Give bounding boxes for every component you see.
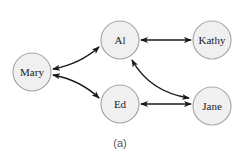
node-mary: Mary [13,53,51,91]
node-jane-label: Jane [202,100,222,112]
node-mary-label: Mary [20,66,44,78]
social-network-diagram: Mary Al Kathy Ed Jane (a) [0,0,244,159]
node-al: Al [101,21,139,59]
node-al-label: Al [115,34,126,46]
node-jane: Jane [193,87,231,125]
edge-mary-ed [53,75,99,98]
node-kathy-label: Kathy [199,34,226,46]
node-ed-label: Ed [114,98,127,110]
node-ed: Ed [101,85,139,123]
node-kathy: Kathy [193,21,231,59]
edge-al-jane [132,60,189,98]
figure-caption: (a) [113,137,126,149]
edge-mary-al [53,47,99,69]
